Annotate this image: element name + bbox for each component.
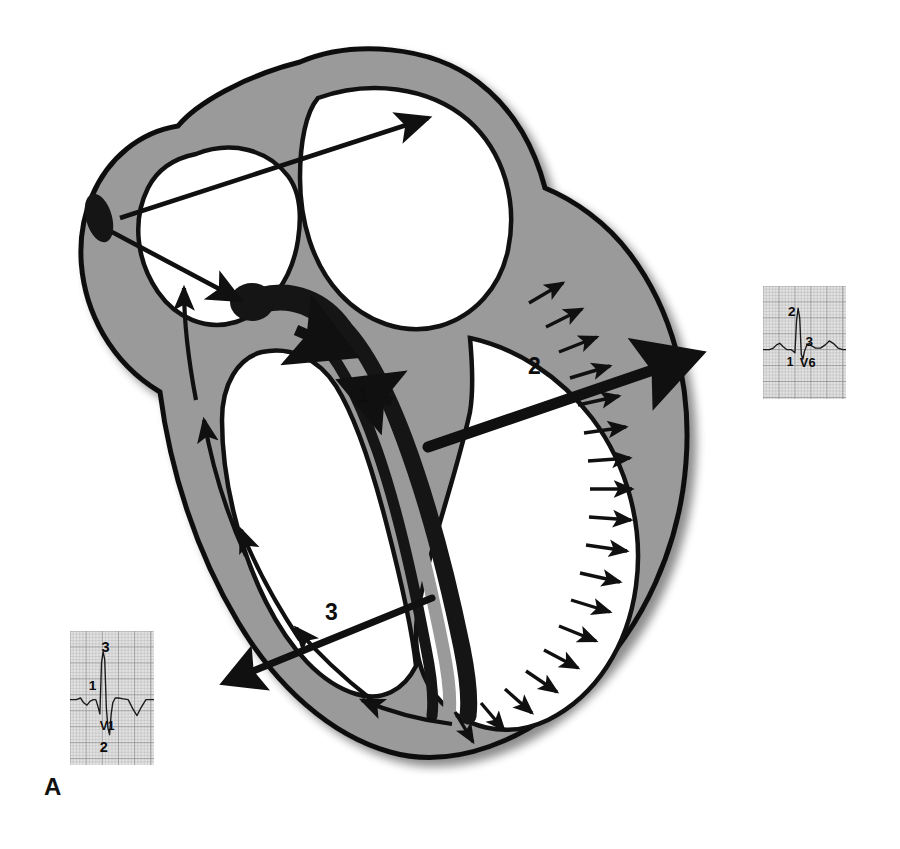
ecg-inset-v1: 3 1 V1 2 — [70, 631, 154, 765]
ecg-v6-lead-label: V6 — [800, 355, 816, 370]
atrioventricular-node — [230, 283, 274, 321]
ecg-trace-v1: 3 1 V1 2 — [70, 631, 154, 765]
ecg-v1-label-2: 2 — [100, 739, 108, 755]
ecg-v1-label-1: 1 — [89, 678, 97, 693]
ecg-trace-v6: 2 3 1 V6 — [763, 286, 846, 399]
ecg-v1-label-3: 3 — [101, 639, 109, 655]
ecg-v6-label-3: 3 — [806, 334, 814, 349]
ecg-v6-label-2: 2 — [788, 304, 796, 319]
ecg-v1-lead-label: V1 — [100, 719, 115, 733]
panel-letter: A — [44, 775, 62, 799]
ecg-v6-label-1: 1 — [787, 355, 794, 369]
vector-label-3: 3 — [325, 601, 338, 624]
vector-label-1: 1 — [358, 386, 369, 405]
figure-panel-a: 2 3 1 V6 3 1 V1 2 1 2 3 A — [0, 0, 900, 849]
ecg-inset-v6: 2 3 1 V6 — [763, 286, 846, 399]
vector-label-2: 2 — [528, 355, 541, 378]
